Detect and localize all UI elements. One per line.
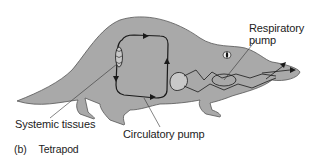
circulatory-pump-label: Circulatory pump [123, 128, 205, 140]
panel-tag: (b) [14, 143, 27, 155]
panel-title: Tetrapod [39, 143, 79, 155]
respiratory-pump-label: Respiratory pump [249, 22, 309, 46]
tetrapod-diagram: Respiratory pump Systemic tissues Circul… [0, 0, 316, 156]
figure-caption: (b)Tetrapod [14, 143, 79, 155]
systemic-tissues-label: Systemic tissues [15, 118, 95, 130]
